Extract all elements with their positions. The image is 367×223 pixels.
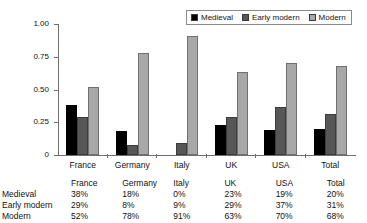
bar-group: UK: [207, 24, 257, 155]
bar-modern[interactable]: [336, 66, 347, 155]
y-axis-tick-label: 0: [45, 150, 49, 159]
bar-group: France: [58, 24, 108, 155]
legend-label-modern: Modern: [319, 13, 346, 22]
table-cell: 29%: [60, 200, 111, 211]
bar-modern[interactable]: [286, 63, 297, 155]
y-axis-tick-label: 0.50: [33, 85, 49, 94]
table-row-header: Modern: [0, 211, 60, 222]
table-cell: 20%: [316, 189, 367, 200]
data-table: FranceGermanyItalyUKUSATotal Medieval38%…: [0, 178, 367, 222]
table-cell: 68%: [316, 211, 367, 222]
table-cell: 0%: [162, 189, 213, 200]
x-axis-label: UK: [207, 160, 257, 170]
x-axis-label: Total: [306, 160, 356, 170]
y-axis-tick-label: 0.75: [33, 52, 49, 61]
y-axis-tick-label: 0.25: [33, 117, 49, 126]
bar-group-bars: [108, 24, 158, 155]
table-column-header: UK: [213, 178, 264, 189]
bar-early-modern[interactable]: [127, 145, 138, 155]
legend-item-early-modern: Early modern: [242, 13, 300, 22]
table-row-header: Early modern: [0, 200, 60, 211]
x-axis-label: Italy: [157, 160, 207, 170]
table-column-header: Italy: [162, 178, 213, 189]
bar-early-modern[interactable]: [176, 143, 187, 155]
bar-early-modern[interactable]: [325, 114, 336, 155]
x-axis-label: France: [58, 160, 108, 170]
table-cell: 78%: [111, 211, 162, 222]
bar-modern[interactable]: [88, 87, 99, 155]
legend-swatch-medieval: [191, 14, 198, 21]
bar-group: Germany: [108, 24, 158, 155]
table-cell: 8%: [111, 200, 162, 211]
bar-early-modern[interactable]: [275, 107, 286, 155]
bar-group-bars: [157, 24, 207, 155]
bar-group-bars: [306, 24, 356, 155]
table-cell: 63%: [213, 211, 264, 222]
y-axis-tick-mark: [54, 155, 58, 156]
table-column-header: France: [60, 178, 111, 189]
table-cell: 52%: [60, 211, 111, 222]
bar-groups: FranceGermanyItalyUKUSATotal: [58, 24, 355, 155]
x-axis-line: [58, 155, 356, 156]
table-cell: 19%: [265, 189, 316, 200]
table-row: Modern52%78%91%63%70%68%: [0, 211, 367, 222]
chart-legend: Medieval Early modern Modern: [186, 10, 352, 25]
table-header-row: FranceGermanyItalyUKUSATotal: [0, 178, 367, 189]
table-column-header: Germany: [111, 178, 162, 189]
bar-medieval[interactable]: [264, 130, 275, 155]
bar-group-bars: [207, 24, 257, 155]
table-column-header: Total: [316, 178, 367, 189]
table-cell: 29%: [213, 200, 264, 211]
table-cell: 18%: [111, 189, 162, 200]
bar-modern[interactable]: [138, 53, 149, 155]
table-cell: 38%: [60, 189, 111, 200]
bar-group: Italy: [157, 24, 207, 155]
y-axis-tick-label: 1.00: [33, 19, 49, 28]
legend-item-medieval: Medieval: [191, 13, 233, 22]
bar-medieval[interactable]: [314, 129, 325, 155]
legend-item-modern: Modern: [309, 13, 346, 22]
table-cell: 37%: [265, 200, 316, 211]
bar-medieval[interactable]: [215, 125, 226, 155]
bar-early-modern[interactable]: [77, 117, 88, 155]
table-cell: 9%: [162, 200, 213, 211]
table-row: Early modern29%8%9%29%37%31%: [0, 200, 367, 211]
table-corner-cell: [0, 178, 60, 189]
bar-group-bars: [256, 24, 306, 155]
table-cell: 70%: [265, 211, 316, 222]
bar-medieval[interactable]: [66, 105, 77, 155]
bar-early-modern[interactable]: [226, 117, 237, 155]
bar-modern[interactable]: [187, 36, 198, 155]
table-row-header: Medieval: [0, 189, 60, 200]
legend-swatch-modern: [309, 14, 316, 21]
table-row: Medieval38%18%0%23%19%20%: [0, 189, 367, 200]
bar-modern[interactable]: [237, 72, 248, 155]
x-axis-label: Germany: [108, 160, 158, 170]
legend-label-early-modern: Early modern: [252, 13, 300, 22]
x-axis-label: USA: [256, 160, 306, 170]
legend-label-medieval: Medieval: [201, 13, 233, 22]
table-column-header: USA: [265, 178, 316, 189]
table-cell: 23%: [213, 189, 264, 200]
legend-swatch-early-modern: [242, 14, 249, 21]
bar-medieval[interactable]: [116, 131, 127, 155]
table-cell: 91%: [162, 211, 213, 222]
table-cell: 31%: [316, 200, 367, 211]
bar-group: USA: [256, 24, 306, 155]
bar-group: Total: [306, 24, 356, 155]
bar-group-bars: [58, 24, 108, 155]
